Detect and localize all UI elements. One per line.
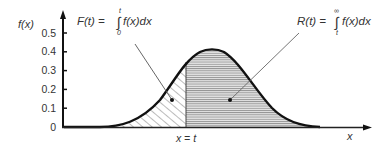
- reliability-chart: 0 0.1 0.2 0.3 0.4 0.5 f(x) x x = t F(t) …: [0, 0, 380, 148]
- ytick-label: 0.1: [41, 102, 56, 114]
- svg-text:f(x)dx: f(x)dx: [123, 15, 153, 27]
- svg-text:F(t) =: F(t) =: [77, 15, 105, 27]
- ytick-label: 0.2: [41, 83, 56, 95]
- svg-text:f(x)dx: f(x)dx: [342, 15, 372, 27]
- svg-text:t: t: [336, 29, 339, 36]
- divider-label: x = t: [175, 132, 197, 144]
- R-leader-dot: [228, 98, 232, 102]
- x-axis-label: x: [346, 130, 353, 142]
- svg-text:0: 0: [117, 29, 121, 36]
- ytick-label: 0.4: [41, 45, 56, 57]
- x-axis-arrow-icon: [363, 125, 372, 131]
- ytick-label: 0: [50, 121, 56, 133]
- F-formula: F(t) = ∫ t 0 f(x)dx: [77, 7, 153, 36]
- svg-text:t: t: [119, 7, 122, 14]
- svg-text:∞: ∞: [334, 7, 339, 14]
- y-axis-label: f(x): [18, 18, 34, 30]
- F-leader-line: [135, 44, 172, 100]
- F-leader-dot: [170, 98, 174, 102]
- y-axis-arrow-icon: [60, 10, 66, 19]
- R-formula: R(t) = ∫ ∞ t f(x)dx: [297, 7, 372, 36]
- ytick-label: 0.5: [41, 27, 56, 39]
- chart-svg: 0 0.1 0.2 0.3 0.4 0.5 f(x) x x = t F(t) …: [0, 0, 380, 148]
- svg-text:R(t) =: R(t) =: [297, 15, 326, 27]
- ytick-label: 0.3: [41, 64, 56, 76]
